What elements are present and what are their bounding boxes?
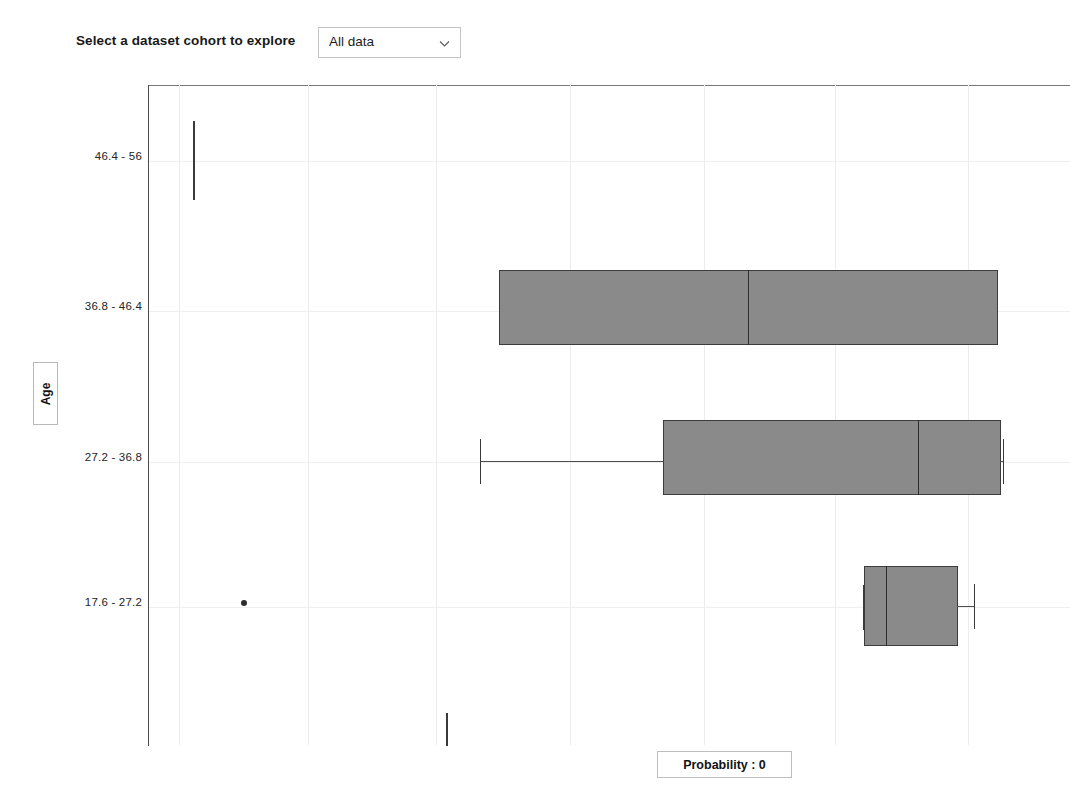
control-bar: Select a dataset cohort to explore All d…	[0, 0, 1070, 70]
y-axis-title-label: Age	[39, 382, 53, 405]
y-tick-label-0: 46.4 - 56	[42, 150, 142, 162]
boxplot-box[interactable]	[864, 566, 958, 646]
gridline-vertical	[436, 85, 437, 745]
y-tick-label-3: 17.6 - 27.2	[42, 596, 142, 608]
boxplot-whisker-low	[481, 461, 663, 462]
x-axis-title-label: Probability : 0	[658, 752, 791, 777]
boxplot-box[interactable]	[663, 420, 1001, 495]
boxplot-whisker-cap-high	[1003, 439, 1004, 484]
boxplot-median-line	[886, 566, 887, 646]
gridline-vertical	[704, 85, 705, 745]
boxplot-whisker-cap-high	[974, 584, 975, 629]
boxplot-median-line	[918, 420, 919, 495]
gridline-vertical	[835, 85, 836, 745]
y-tick-label-2: 27.2 - 36.8	[42, 451, 142, 463]
chevron-down-icon	[438, 37, 451, 50]
boxplot-degenerate-line[interactable]	[193, 121, 195, 200]
cohort-select-dropdown[interactable]: All data	[318, 27, 461, 58]
boxplot-outlier-point[interactable]	[241, 600, 247, 606]
y-axis-title-box[interactable]: Age	[33, 362, 58, 425]
cohort-select-value: All data	[329, 34, 374, 49]
gridline-vertical	[968, 85, 969, 745]
gridline-vertical	[179, 85, 180, 745]
boxplot-canvas[interactable]	[149, 85, 1070, 745]
cohort-select-label: Select a dataset cohort to explore	[76, 33, 295, 48]
boxplot-whisker-high	[957, 606, 975, 607]
boxplot-median-line	[748, 270, 749, 345]
gridline-horizontal	[149, 161, 1070, 162]
gridline-vertical	[308, 85, 309, 745]
boxplot-clipped-marker[interactable]	[446, 713, 448, 746]
gridline-vertical	[570, 85, 571, 745]
boxplot-whisker-cap-low	[480, 439, 481, 484]
x-axis-title-box[interactable]: Probability : 0	[657, 751, 792, 778]
y-tick-label-1: 36.8 - 46.4	[42, 300, 142, 312]
